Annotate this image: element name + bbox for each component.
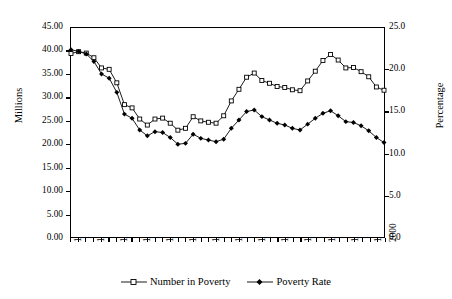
marker-filled-diamond (359, 123, 364, 128)
marker-open-square (275, 85, 279, 89)
y-axis-left-tick-label: 15.00 (19, 163, 63, 172)
x-axis-tick-mark (277, 238, 278, 242)
marker-filled-diamond (206, 138, 211, 143)
marker-open-square (191, 115, 195, 119)
y-axis-right-tick-mark (385, 154, 389, 155)
marker-filled-diamond (214, 139, 219, 144)
marker-open-square (344, 66, 348, 70)
marker-filled-diamond (328, 108, 333, 113)
marker-filled-diamond (160, 130, 165, 135)
marker-open-square (184, 126, 188, 130)
x-axis-tick-mark (208, 238, 209, 242)
marker-open-square (199, 119, 203, 123)
marker-filled-diamond (290, 126, 295, 131)
x-axis-tick-mark (131, 238, 132, 242)
marker-open-square (306, 79, 310, 83)
x-axis-tick-mark (116, 238, 117, 242)
marker-filled-diamond (130, 116, 135, 121)
x-axis-tick-label: 2000 (389, 223, 398, 242)
y-axis-left-tick-label: 25.00 (19, 116, 63, 125)
marker-filled-diamond (351, 120, 356, 125)
y-axis-right-title: Percentage (434, 66, 445, 146)
series-layer (71, 28, 384, 237)
marker-open-square (382, 88, 386, 92)
marker-open-square (260, 78, 264, 82)
marker-open-square (130, 106, 134, 110)
marker-open-square (122, 103, 126, 107)
marker-filled-diamond (107, 76, 112, 81)
y-axis-right-tick-mark (385, 196, 389, 197)
y-axis-left-tick-label: 40.00 (19, 45, 63, 54)
x-axis-tick-mark (162, 238, 163, 242)
marker-open-square (214, 121, 218, 125)
marker-open-square (229, 99, 233, 103)
marker-open-square (138, 117, 142, 121)
x-axis-tick-mark (316, 238, 317, 242)
series-line (71, 52, 384, 130)
y-axis-left-tick-label: 20.00 (19, 139, 63, 148)
y-axis-right-tick-mark (385, 111, 389, 112)
y-axis-left-title: Millions (13, 71, 24, 141)
x-axis-tick-mark (270, 238, 271, 242)
plot-area (70, 27, 385, 238)
marker-open-square (222, 114, 226, 118)
marker-open-square (268, 81, 272, 85)
y-axis-right-tick-label: 25.0 (389, 22, 429, 31)
legend-item: Number in Poverty (121, 276, 231, 287)
x-axis-tick-mark (201, 238, 202, 242)
y-axis-right-tick-mark (385, 69, 389, 70)
y-axis-left-tick-label: 30.00 (19, 92, 63, 101)
x-axis-tick-mark (108, 238, 109, 242)
marker-filled-diamond (282, 122, 287, 127)
marker-open-square (161, 116, 165, 120)
x-axis-tick-mark (178, 238, 179, 242)
marker-filled-diamond (275, 121, 280, 126)
y-axis-right-tick-label: 5.0 (389, 191, 429, 200)
marker-open-square (115, 81, 119, 85)
marker-open-square (145, 123, 149, 127)
legend-open-square-icon (121, 277, 147, 287)
x-axis-tick-mark (70, 238, 71, 242)
y-axis-left-tick-label: 35.00 (19, 69, 63, 78)
y-axis-right-tick-label: 15.0 (389, 106, 429, 115)
marker-open-square (298, 89, 302, 93)
x-axis-tick-mark (254, 238, 255, 242)
x-axis-tick-mark (339, 238, 340, 242)
marker-open-square (351, 66, 355, 70)
x-axis-tick-mark (93, 238, 94, 242)
x-axis-tick-mark (247, 238, 248, 242)
legend-filled-diamond-icon (247, 277, 273, 287)
marker-open-square (374, 85, 378, 89)
y-axis-left-tick-label: 0.00 (19, 233, 63, 242)
marker-open-square (176, 128, 180, 132)
chart-legend: Number in PovertyPoverty Rate (0, 276, 452, 287)
x-axis-tick-mark (385, 238, 386, 242)
legend-item: Poverty Rate (247, 276, 331, 287)
marker-open-square (252, 71, 256, 75)
marker-filled-diamond (267, 117, 272, 122)
marker-open-square (206, 120, 210, 124)
marker-filled-diamond (152, 129, 157, 134)
marker-open-square (367, 75, 371, 79)
marker-filled-diamond (114, 90, 119, 95)
marker-filled-diamond (382, 140, 387, 145)
marker-open-square (153, 117, 157, 121)
marker-open-square (329, 52, 333, 56)
y-axis-left-tick-label: 45.00 (19, 22, 63, 31)
marker-filled-diamond (320, 111, 325, 116)
x-axis-tick-mark (139, 238, 140, 242)
y-axis-right-tick-label: 10.0 (389, 149, 429, 158)
marker-open-square (321, 59, 325, 63)
x-axis-tick-mark (324, 238, 325, 242)
x-axis-tick-mark (224, 238, 225, 242)
marker-open-square (107, 67, 111, 71)
marker-filled-diamond (198, 136, 203, 141)
marker-open-square (313, 69, 317, 73)
marker-filled-diamond (122, 112, 127, 117)
x-axis-tick-mark (231, 238, 232, 242)
marker-open-square (283, 85, 287, 89)
x-axis-tick-mark (85, 238, 86, 242)
series-line (71, 50, 384, 144)
marker-open-square (237, 87, 241, 91)
y-axis-right-tick-label: 20.0 (389, 64, 429, 73)
